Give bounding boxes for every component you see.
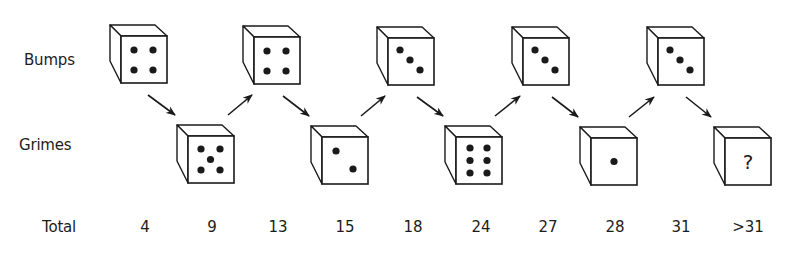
- arrow-down-right-icon: [148, 95, 175, 115]
- total-value: 9: [207, 218, 217, 236]
- dice-sequence-graphic: ?: [0, 0, 788, 262]
- pip-icon: [610, 158, 617, 165]
- die-bumps-3: [243, 26, 300, 84]
- total-value: 15: [335, 218, 354, 236]
- die-bumps-9: [647, 27, 704, 85]
- dice-game-diagram: Bumps Grimes Total ? 4913151824272831>31: [0, 0, 788, 262]
- die-front-face: [456, 137, 502, 184]
- die-side-face: [377, 27, 388, 85]
- arrow-up-right-icon: [228, 95, 252, 115]
- pip-icon: [282, 67, 289, 74]
- pip-icon: [197, 145, 204, 152]
- die-grimes-4: [311, 126, 368, 184]
- pip-icon: [541, 56, 548, 63]
- pip-icon: [676, 56, 683, 63]
- pip-icon: [332, 147, 339, 154]
- die-side-face: [580, 127, 591, 185]
- die-side-face: [311, 126, 322, 184]
- pip-icon: [483, 157, 490, 164]
- arrow-up-right-icon: [495, 96, 520, 116]
- total-value: 31: [671, 218, 690, 236]
- die-grimes-10: ?: [714, 127, 771, 185]
- pip-icon: [416, 66, 423, 73]
- dice-layer: ?: [110, 25, 771, 185]
- total-value: 27: [538, 218, 557, 236]
- die-bumps-5: [377, 27, 434, 85]
- die-side-face: [110, 25, 121, 83]
- die-side-face: [647, 27, 658, 85]
- die-side-face: [512, 27, 523, 85]
- pip-icon: [686, 66, 693, 73]
- die-bumps-7: [512, 27, 569, 85]
- die-side-face: [243, 26, 254, 84]
- pip-icon: [216, 145, 223, 152]
- pip-icon: [282, 47, 289, 54]
- arrow-up-right-icon: [361, 96, 385, 116]
- die-front-face: [322, 137, 368, 184]
- pip-icon: [406, 56, 413, 63]
- pip-icon: [666, 46, 673, 53]
- total-value: >31: [732, 218, 764, 236]
- pip-icon: [483, 169, 490, 176]
- pip-icon: [466, 144, 473, 151]
- pip-icon: [207, 156, 214, 163]
- total-value: 28: [605, 218, 624, 236]
- arrow-down-right-icon: [552, 97, 578, 117]
- pip-icon: [466, 169, 473, 176]
- total-value: 13: [268, 218, 287, 236]
- total-value: 4: [140, 218, 150, 236]
- pip-icon: [263, 47, 270, 54]
- die-bumps-1: [110, 25, 167, 83]
- unknown-value-icon: ?: [743, 150, 754, 174]
- arrow-down-right-icon: [283, 96, 309, 116]
- arrow-down-right-icon: [417, 97, 443, 116]
- arrows-layer: [148, 95, 711, 117]
- arrow-up-right-icon: [629, 97, 654, 117]
- die-front-face: [254, 37, 300, 84]
- pip-icon: [396, 46, 403, 53]
- die-front-face: [121, 36, 167, 83]
- pip-icon: [263, 67, 270, 74]
- die-grimes-6: [445, 126, 502, 184]
- pip-icon: [466, 157, 473, 164]
- pip-icon: [531, 46, 538, 53]
- pip-icon: [149, 66, 156, 73]
- pip-icon: [349, 165, 356, 172]
- pip-icon: [130, 46, 137, 53]
- total-value: 18: [403, 218, 422, 236]
- pip-icon: [216, 166, 223, 173]
- pip-icon: [483, 144, 490, 151]
- pip-icon: [130, 66, 137, 73]
- die-side-face: [714, 127, 725, 185]
- total-value: 24: [471, 218, 490, 236]
- die-grimes-2: [177, 125, 234, 183]
- die-grimes-8: [580, 127, 637, 185]
- pip-icon: [551, 66, 558, 73]
- pip-icon: [149, 46, 156, 53]
- die-side-face: [177, 125, 188, 183]
- arrow-down-right-icon: [686, 97, 711, 117]
- die-side-face: [445, 126, 456, 184]
- pip-icon: [197, 166, 204, 173]
